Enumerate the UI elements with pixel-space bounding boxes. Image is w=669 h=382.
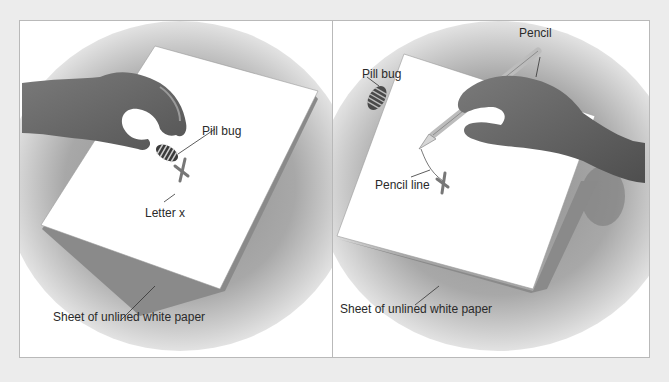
label-paper: Sheet of unlined white paper	[53, 311, 205, 323]
figure-frame: Pill bug Letter x Sheet of unlined white…	[19, 20, 650, 358]
left-illustration	[20, 21, 332, 358]
label-paper: Sheet of unlined white paper	[340, 303, 492, 315]
panel-right-tracing-path: Pencil Pill bug Pencil line Sheet of unl…	[333, 21, 650, 357]
label-pill-bug: Pill bug	[202, 125, 241, 137]
label-pill-bug: Pill bug	[362, 68, 401, 80]
label-letter-x: Letter x	[145, 207, 185, 219]
label-pencil: Pencil	[519, 27, 552, 39]
panel-left-placing-bug: Pill bug Letter x Sheet of unlined white…	[20, 21, 332, 357]
label-pencil-line: Pencil line	[375, 179, 430, 191]
